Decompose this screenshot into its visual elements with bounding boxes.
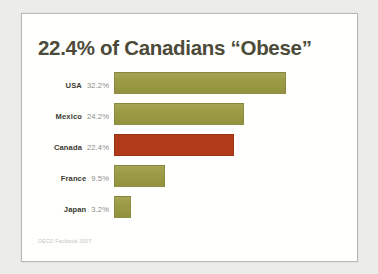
bar-label-mexico: Mexico24.2%: [22, 103, 109, 125]
country-value: 3.2%: [91, 205, 109, 214]
table-row: Canada22.4%: [22, 134, 359, 156]
table-row: France9.5%: [22, 165, 359, 187]
bar-chart: USA32.2% Mexico24.2% Canada22.4%: [22, 72, 359, 227]
country-name: Japan: [64, 205, 86, 214]
bar-track: [114, 196, 354, 218]
bar-france[interactable]: [114, 165, 165, 187]
country-name: USA: [66, 81, 82, 90]
bar-mexico[interactable]: [114, 103, 244, 125]
slide-frame: 22.4% of Canadians “Obese” USA32.2% Mexi…: [21, 13, 358, 262]
country-value: 32.2%: [87, 81, 109, 90]
bar-canada[interactable]: [114, 134, 234, 156]
country-value: 22.4%: [87, 143, 109, 152]
bar-label-france: France9.5%: [22, 165, 109, 187]
table-row: Mexico24.2%: [22, 103, 359, 125]
country-name: Mexico: [56, 112, 82, 121]
page-title: 22.4% of Canadians “Obese”: [38, 36, 348, 60]
bar-label-japan: Japan3.2%: [22, 196, 109, 218]
country-name: Canada: [54, 143, 82, 152]
country-value: 9.5%: [91, 174, 109, 183]
country-name: France: [61, 174, 87, 183]
bar-track: [114, 103, 354, 125]
table-row: Japan3.2%: [22, 196, 359, 218]
source-note: OECD Factbook 2007: [38, 238, 91, 244]
bar-track: [114, 72, 354, 94]
bar-track: [114, 134, 354, 156]
country-value: 24.2%: [87, 112, 109, 121]
bar-usa[interactable]: [114, 72, 286, 94]
bar-track: [114, 165, 354, 187]
bar-label-canada: Canada22.4%: [22, 134, 109, 156]
table-row: USA32.2%: [22, 72, 359, 94]
bar-label-usa: USA32.2%: [22, 72, 109, 94]
bar-japan[interactable]: [114, 196, 131, 218]
